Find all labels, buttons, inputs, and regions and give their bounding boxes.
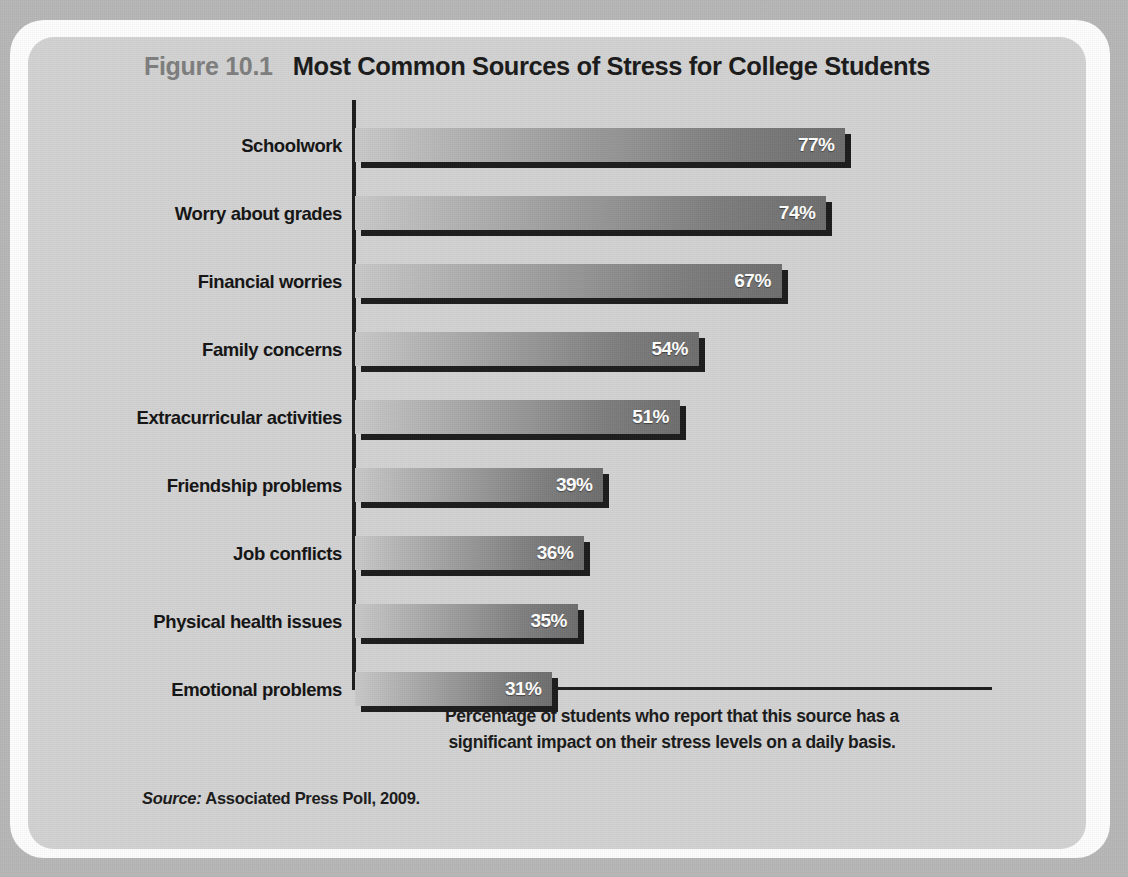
bar-value-label: 51% xyxy=(632,406,669,428)
bar-row: Friendship problems39% xyxy=(0,468,1128,502)
bar-category-label: Emotional problems xyxy=(60,679,342,701)
bar[interactable]: 31% xyxy=(355,672,552,706)
bar-row: Emotional problems31% xyxy=(0,672,1128,706)
bar-category-label: Family concerns xyxy=(60,339,342,361)
bar-value-label: 39% xyxy=(556,474,593,496)
bar-value-label: 54% xyxy=(651,338,688,360)
bar-category-label: Physical health issues xyxy=(60,611,342,633)
bar-category-label: Financial worries xyxy=(60,271,342,293)
source-label: Source: xyxy=(142,789,201,807)
bar-container[interactable]: 35% xyxy=(355,604,578,638)
caption-line-2: significant impact on their stress level… xyxy=(352,729,992,755)
bar-row: Schoolwork77% xyxy=(0,128,1128,162)
bar-row: Family concerns54% xyxy=(0,332,1128,366)
page-background: Figure 10.1 Most Common Sources of Stres… xyxy=(0,0,1128,877)
bar-category-label: Job conflicts xyxy=(60,543,342,565)
bar[interactable]: 51% xyxy=(355,400,680,434)
bar-container[interactable]: 36% xyxy=(355,536,584,570)
bar-value-label: 36% xyxy=(537,542,574,564)
bar-container[interactable]: 31% xyxy=(355,672,552,706)
bar-category-label: Friendship problems xyxy=(60,475,342,497)
bar[interactable]: 36% xyxy=(355,536,584,570)
bar[interactable]: 35% xyxy=(355,604,578,638)
bar-value-label: 67% xyxy=(734,270,771,292)
bar-container[interactable]: 74% xyxy=(355,196,826,230)
bar-row: Financial worries67% xyxy=(0,264,1128,298)
y-axis-line xyxy=(352,100,356,690)
bar-category-label: Extracurricular activities xyxy=(60,407,342,429)
bar[interactable]: 74% xyxy=(355,196,826,230)
bar-container[interactable]: 54% xyxy=(355,332,699,366)
bar-category-label: Worry about grades xyxy=(60,203,342,225)
source-text: Associated Press Poll, 2009. xyxy=(205,789,419,807)
bar-row: Job conflicts36% xyxy=(0,536,1128,570)
source-note: Source:Associated Press Poll, 2009. xyxy=(142,789,420,808)
bar-container[interactable]: 39% xyxy=(355,468,603,502)
chart-caption: Percentage of students who report that t… xyxy=(352,703,992,755)
bar-category-label: Schoolwork xyxy=(60,135,342,157)
bar-container[interactable]: 67% xyxy=(355,264,782,298)
bar-row: Worry about grades74% xyxy=(0,196,1128,230)
bar-value-label: 77% xyxy=(798,134,835,156)
bar-row: Physical health issues35% xyxy=(0,604,1128,638)
bar-value-label: 35% xyxy=(530,610,567,632)
bar[interactable]: 39% xyxy=(355,468,603,502)
bar-row: Extracurricular activities51% xyxy=(0,400,1128,434)
bar[interactable]: 67% xyxy=(355,264,782,298)
bar[interactable]: 77% xyxy=(355,128,845,162)
bar[interactable]: 54% xyxy=(355,332,699,366)
bar-container[interactable]: 51% xyxy=(355,400,680,434)
caption-line-1: Percentage of students who report that t… xyxy=(352,703,992,729)
bar-value-label: 31% xyxy=(505,678,542,700)
bar-value-label: 74% xyxy=(779,202,816,224)
bar-container[interactable]: 77% xyxy=(355,128,845,162)
